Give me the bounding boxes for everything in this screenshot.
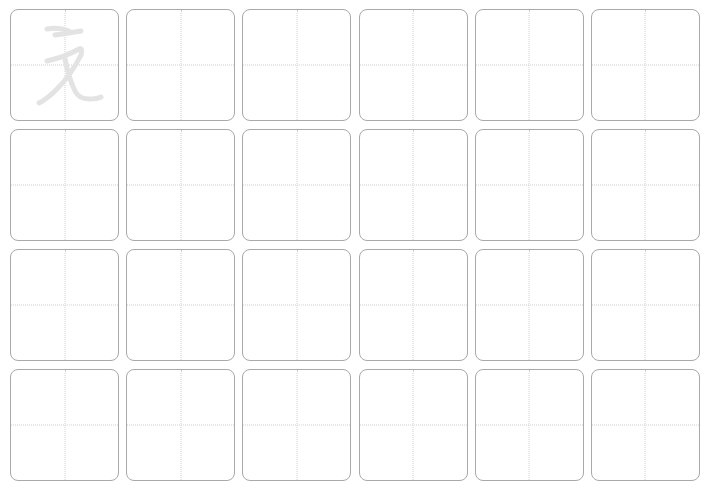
practice-cell (10, 9, 119, 121)
horizontal-guide-line (360, 185, 467, 186)
practice-cell (359, 369, 468, 481)
horizontal-guide-line (243, 425, 350, 426)
horizontal-guide-line (11, 305, 118, 306)
practice-cell (242, 129, 351, 241)
practice-cell (10, 129, 119, 241)
practice-cell (10, 249, 119, 361)
horizontal-guide-line (476, 305, 583, 306)
practice-cell (475, 9, 584, 121)
horizontal-guide-line (127, 305, 234, 306)
practice-cell (126, 129, 235, 241)
practice-cell (10, 369, 119, 481)
horizontal-guide-line (127, 65, 234, 66)
practice-cell (359, 129, 468, 241)
trace-character (11, 10, 118, 120)
horizontal-guide-line (360, 305, 467, 306)
practice-cell (475, 129, 584, 241)
practice-cell (242, 369, 351, 481)
horizontal-guide-line (476, 185, 583, 186)
horizontal-guide-line (127, 185, 234, 186)
practice-cell (126, 369, 235, 481)
cursive-glyph-icon (25, 19, 105, 111)
horizontal-guide-line (127, 425, 234, 426)
practice-cell (475, 249, 584, 361)
horizontal-guide-line (592, 65, 699, 66)
practice-cell (591, 369, 700, 481)
practice-cell (242, 249, 351, 361)
horizontal-guide-line (11, 425, 118, 426)
horizontal-guide-line (243, 305, 350, 306)
horizontal-guide-line (243, 65, 350, 66)
horizontal-guide-line (592, 305, 699, 306)
practice-cell (126, 249, 235, 361)
practice-cell (591, 129, 700, 241)
horizontal-guide-line (360, 65, 467, 66)
practice-sheet (10, 9, 700, 484)
practice-cell (359, 249, 468, 361)
horizontal-guide-line (592, 185, 699, 186)
practice-cell (591, 9, 700, 121)
practice-cell (242, 9, 351, 121)
horizontal-guide-line (360, 425, 467, 426)
horizontal-guide-line (592, 425, 699, 426)
practice-cell (359, 9, 468, 121)
practice-cell (591, 249, 700, 361)
practice-cell (475, 369, 584, 481)
practice-cell (126, 9, 235, 121)
horizontal-guide-line (243, 185, 350, 186)
horizontal-guide-line (11, 185, 118, 186)
horizontal-guide-line (476, 65, 583, 66)
horizontal-guide-line (476, 425, 583, 426)
